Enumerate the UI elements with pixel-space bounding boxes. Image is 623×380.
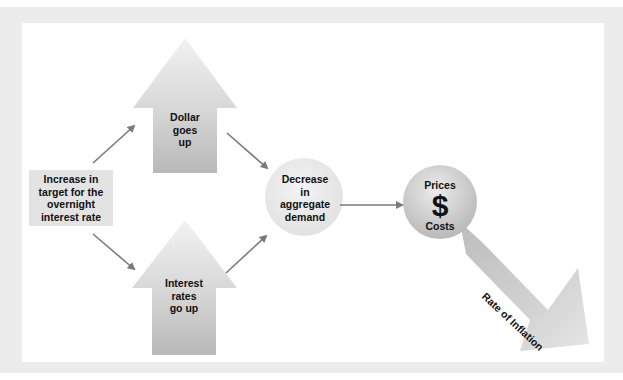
dollar-icon: $ — [403, 191, 477, 221]
start-line-4: interest rate — [41, 211, 101, 223]
connector-box-to-dollar — [93, 126, 134, 163]
lower-line-3: go up — [170, 302, 199, 314]
upper-arrow-label: Dollar goes up — [153, 111, 217, 149]
connector-dollar-to-demand — [227, 133, 267, 168]
start-line-3: overnight — [47, 198, 95, 210]
demand-circle-label: Decrease in aggregate demand — [266, 173, 344, 223]
upper-line-3: up — [179, 136, 192, 148]
lower-line-2: rates — [171, 290, 196, 302]
start-box-label: Increase in target for the overnight int… — [39, 173, 104, 223]
demand-line-3: aggregate — [280, 198, 330, 210]
start-box: Increase in target for the overnight int… — [29, 170, 113, 226]
lower-arrow-label: Interest rates go up — [152, 277, 216, 315]
upper-line-2: goes — [173, 124, 198, 136]
start-line-2: target for the — [39, 186, 104, 198]
demand-line-4: demand — [285, 211, 325, 223]
connector-box-to-interest — [93, 234, 134, 269]
lower-line-1: Interest — [165, 277, 203, 289]
start-line-1: Increase in — [44, 173, 99, 185]
upper-up-arrow — [133, 38, 237, 173]
demand-line-2: in — [300, 186, 309, 198]
demand-line-1: Decrease — [282, 173, 329, 185]
upper-line-1: Dollar — [170, 111, 200, 123]
costs-label: Costs — [403, 220, 477, 233]
connector-interest-to-demand — [226, 236, 266, 273]
